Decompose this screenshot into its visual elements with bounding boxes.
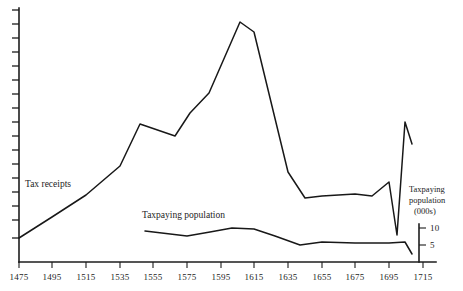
right-axis-title-line3: (000s) (414, 206, 436, 216)
x-tick-label-1695: 1695 (380, 272, 399, 282)
series-label-taxpaying-population: Taxpaying population (142, 210, 225, 220)
right-axis-title-line1: Taxpaying (409, 184, 446, 194)
x-tick-label-1675: 1675 (346, 272, 365, 282)
x-tick-label-1575: 1575 (178, 272, 197, 282)
x-tick-label-1715: 1715 (414, 272, 433, 282)
right-axis-title-line2: population (409, 195, 446, 205)
line-chart: 1475 1495 1515 1535 1555 1575 1595 1615 … (0, 0, 463, 291)
right-tick-label-10: 10 (430, 223, 440, 233)
right-tick-label-5: 5 (430, 240, 435, 250)
x-tick-label-1475: 1475 (10, 272, 29, 282)
series-label-tax-receipts: Tax receipts (25, 179, 71, 189)
x-tick-label-1655: 1655 (313, 272, 332, 282)
chart-container: 1475 1495 1515 1535 1555 1575 1595 1615 … (0, 0, 463, 291)
chart-background (0, 0, 463, 291)
x-tick-label-1595: 1595 (212, 272, 231, 282)
x-tick-label-1535: 1535 (111, 272, 130, 282)
x-tick-label-1495: 1495 (43, 272, 62, 282)
x-tick-label-1635: 1635 (279, 272, 298, 282)
x-tick-label-1555: 1555 (144, 272, 163, 282)
x-tick-label-1615: 1615 (245, 272, 264, 282)
x-tick-label-1515: 1515 (77, 272, 96, 282)
